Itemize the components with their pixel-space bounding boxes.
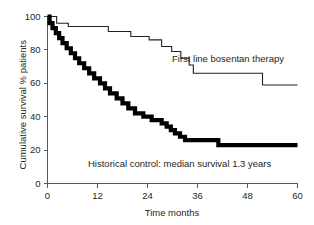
x-tick-label: 36 <box>192 191 203 201</box>
curve-historical-control <box>48 17 298 146</box>
x-axis-title: Time months <box>47 208 297 218</box>
x-tick-label: 12 <box>92 191 103 201</box>
y-axis-title: Cumulative survival % patients <box>18 20 28 190</box>
x-tick-label: 24 <box>142 191 153 201</box>
x-tick-label: 48 <box>242 191 253 201</box>
series-label-bosentan: First line bosentan therapy <box>172 54 284 64</box>
curve-bosentan <box>48 17 298 85</box>
survival-curves <box>48 17 298 146</box>
series-label-historical-control: Historical control: median survival 1.3 … <box>88 159 271 169</box>
x-tick-label: 60 <box>292 191 303 201</box>
kaplan-meier-survival-chart: 01224364860020406080100 Cumulative survi… <box>0 0 314 225</box>
x-tick-label: 0 <box>45 191 50 201</box>
